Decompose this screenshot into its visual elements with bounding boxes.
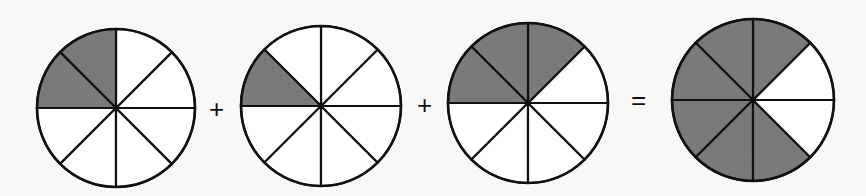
plus-sign: + [209, 96, 224, 122]
result-circle [672, 19, 834, 181]
center-point [526, 101, 531, 106]
fraction-circle-3 [448, 23, 608, 183]
fraction-circle-1 [37, 29, 195, 187]
center-point [114, 106, 119, 111]
fraction-diagram: ++= [0, 0, 866, 196]
fraction-circles-svg [0, 0, 866, 196]
equals-sign: = [631, 87, 646, 113]
center-point [751, 98, 756, 103]
center-point [319, 104, 324, 109]
plus-sign: + [417, 92, 432, 118]
fraction-circle-2 [241, 26, 401, 186]
